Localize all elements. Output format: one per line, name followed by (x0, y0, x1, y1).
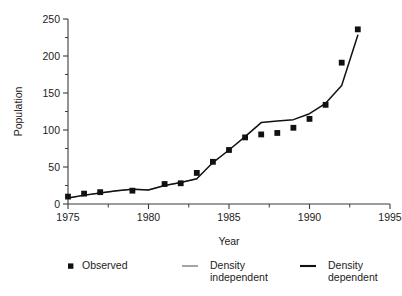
chart-figure: 05010015020025019751980198519901995Popul… (0, 0, 402, 296)
observed-data-point (307, 116, 313, 122)
legend-label-density-dependent-line2: dependent (328, 271, 378, 283)
x-tick-label: 1990 (298, 211, 322, 223)
population-chart: 05010015020025019751980198519901995Popul… (0, 0, 402, 296)
x-tick-label: 1985 (217, 211, 241, 223)
observed-data-point (323, 102, 329, 108)
observed-data-point (355, 26, 361, 32)
observed-data-point (65, 194, 71, 200)
observed-data-point (162, 181, 168, 187)
x-tick-label: 1995 (378, 211, 402, 223)
y-tick-label: 100 (42, 124, 60, 136)
observed-data-point (81, 191, 87, 197)
observed-data-point (130, 188, 136, 194)
legend-marker-observed (68, 263, 73, 268)
series-line-density-dependent (68, 35, 358, 198)
observed-data-point (242, 135, 248, 141)
x-axis-title: Year (218, 235, 240, 247)
observed-data-point (258, 132, 264, 138)
x-tick-label: 1980 (137, 211, 161, 223)
observed-data-point (210, 159, 216, 165)
y-axis-title: Population (12, 87, 24, 137)
observed-data-point (97, 189, 103, 195)
y-tick-label: 150 (42, 87, 60, 99)
observed-data-point (339, 60, 345, 66)
observed-data-point (274, 130, 280, 136)
legend-label-density-independent-line2: independent (210, 271, 268, 283)
legend-label-observed: Observed (82, 259, 128, 271)
y-tick-label: 200 (42, 50, 60, 62)
x-tick-label: 1975 (56, 211, 80, 223)
legend-label-density-independent-line1: Density (210, 259, 246, 271)
observed-data-point (194, 170, 200, 176)
y-tick-label: 0 (54, 198, 60, 210)
observed-data-point (291, 125, 297, 131)
y-tick-label: 50 (48, 161, 60, 173)
observed-data-point (178, 180, 184, 186)
observed-data-point (226, 147, 232, 153)
legend-label-density-dependent-line1: Density (328, 259, 364, 271)
y-tick-label: 250 (42, 13, 60, 25)
